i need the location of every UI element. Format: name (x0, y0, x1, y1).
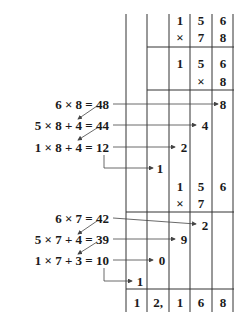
grid-lines (0, 0, 239, 323)
step2-result-thousands: 0 (152, 254, 172, 267)
step1-multiplier: 8 (213, 75, 233, 88)
step2-times-sign: × (170, 197, 190, 210)
step2-result-hundreds: 9 (174, 233, 194, 246)
full-multiplier-tens: 7 (191, 31, 211, 44)
final-hundreds: 1 (170, 296, 190, 309)
step2-multiplicand-tens: 5 (191, 180, 211, 193)
step1-multiplicand-ones: 6 (213, 57, 233, 70)
step2-multiplicand-ones: 6 (213, 180, 233, 193)
step1-result-hundreds: 2 (174, 141, 194, 154)
step1-times-sign: × (191, 75, 211, 88)
step2-equation-tens: 5 × 7 + 4 = 39 (35, 233, 109, 246)
step2-multiplicand-hundreds: 1 (170, 180, 190, 193)
multiplication-diagram: 1 5 6 × 7 8 1 5 6 × 8 6 × 8 = 48 5 × 8 +… (0, 0, 239, 323)
final-tens: 6 (191, 296, 211, 309)
step1-equation-hundreds: 1 × 8 + 4 = 12 (35, 141, 109, 154)
full-multiplicand-ones: 6 (213, 14, 233, 27)
full-multiplier-ones: 8 (213, 31, 233, 44)
final-ones: 8 (213, 296, 233, 309)
step1-equation-tens: 5 × 8 + 4 = 44 (35, 119, 109, 132)
step2-equation-ones: 6 × 7 = 42 (55, 212, 109, 225)
final-ten-thousands: 1 (127, 296, 147, 309)
step1-multiplicand-hundreds: 1 (170, 57, 190, 70)
step1-result-tens: 4 (195, 119, 215, 132)
step2-carry-out: 1 (130, 275, 150, 288)
step2-multiplier: 7 (191, 197, 211, 210)
step1-multiplicand-tens: 5 (191, 57, 211, 70)
step1-carry-out: 1 (150, 162, 170, 175)
step1-result-ones: 8 (213, 98, 233, 111)
step2-result-tens: 2 (195, 219, 215, 232)
full-multiplicand-hundreds: 1 (170, 14, 190, 27)
final-thousands: 2, (148, 296, 168, 309)
full-multiplicand-tens: 5 (191, 14, 211, 27)
full-times-sign: × (170, 31, 190, 44)
step1-equation-ones: 6 × 8 = 48 (55, 98, 109, 111)
step2-equation-hundreds: 1 × 7 + 3 = 10 (35, 254, 109, 267)
